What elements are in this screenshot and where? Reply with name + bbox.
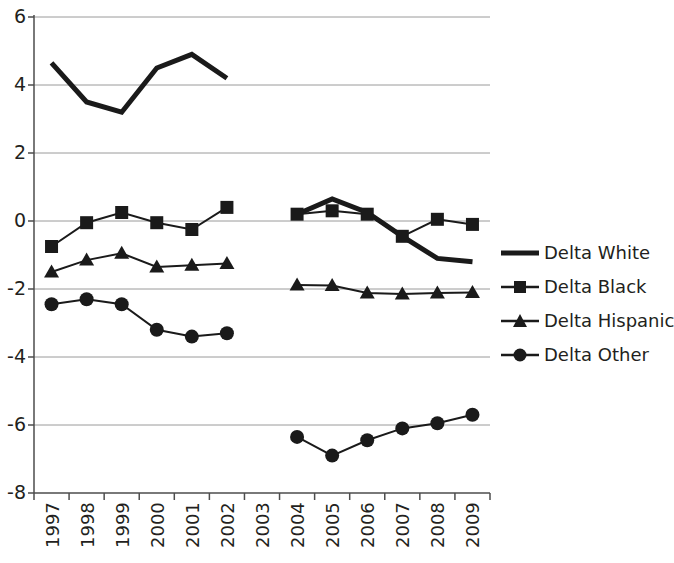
y-tick-label: -2 [0, 279, 26, 298]
y-tick-label: 0 [0, 211, 26, 230]
legend-label-delta-black: Delta Black [544, 278, 646, 296]
legend-label-delta-white: Delta White [544, 244, 650, 262]
x-tick-label: 2006 [359, 502, 377, 548]
legend-label-delta-other: Delta Other [544, 346, 649, 364]
legend-item-delta-hispanic[interactable]: Delta Hispanic [500, 304, 658, 338]
series-layer [44, 54, 480, 462]
legend: Delta White Delta Black Delta Hispanic D… [500, 236, 658, 372]
legend-swatch-square-marker [500, 277, 540, 297]
y-tick-label: 4 [0, 75, 26, 94]
legend-label-delta-hispanic: Delta Hispanic [544, 312, 674, 330]
y-tick-label: -8 [0, 483, 26, 502]
legend-item-delta-black[interactable]: Delta Black [500, 270, 658, 304]
legend-item-delta-white[interactable]: Delta White [500, 236, 658, 270]
legend-item-delta-other[interactable]: Delta Other [500, 338, 658, 372]
legend-swatch-circle-marker [500, 345, 540, 365]
y-tick-label: 2 [0, 143, 26, 162]
gridlines [34, 17, 490, 425]
y-tick-label: 6 [0, 7, 26, 26]
x-tick-label: 2000 [149, 502, 167, 548]
x-tick-label: 2003 [254, 502, 272, 548]
legend-swatch-triangle-marker [500, 311, 540, 331]
y-tick-label: -6 [0, 415, 26, 434]
y-tick-label: -4 [0, 347, 26, 366]
x-tick-label: 2002 [219, 502, 237, 548]
x-tick-label: 2007 [394, 502, 412, 548]
x-tick-label: 2008 [429, 502, 447, 548]
x-tick-label: 1999 [114, 502, 132, 548]
x-tick-label: 1997 [44, 502, 62, 548]
x-tick-label: 2004 [289, 502, 307, 548]
x-tick-label: 2001 [184, 502, 202, 548]
legend-swatch-line-thick [500, 243, 540, 263]
x-tick-label: 1998 [79, 502, 97, 548]
x-tick-label: 2005 [324, 502, 342, 548]
x-tick-label: 2009 [464, 502, 482, 548]
